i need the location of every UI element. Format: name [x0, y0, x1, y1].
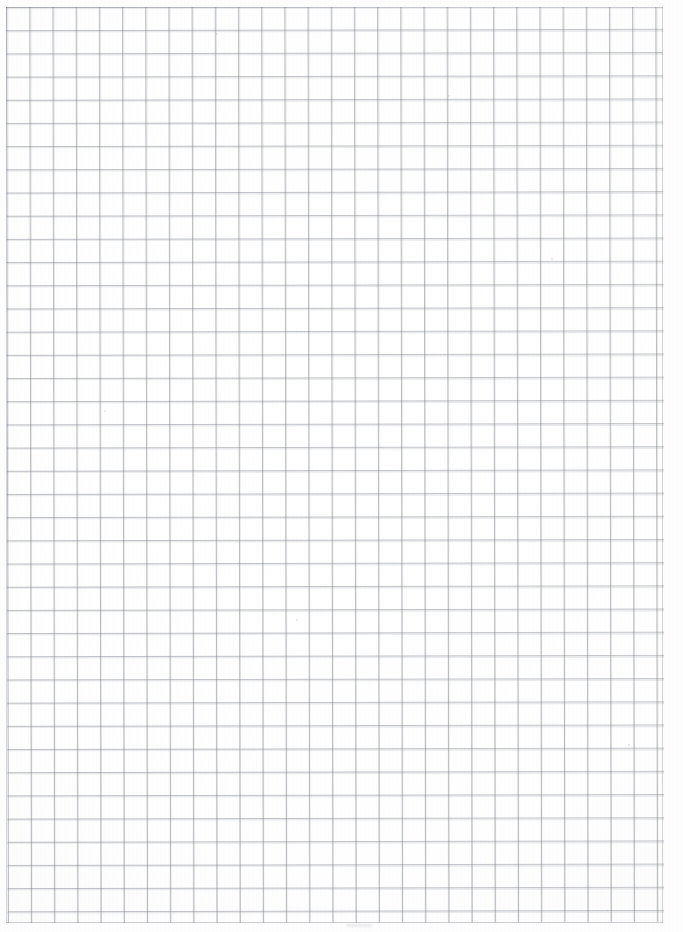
scan-speck-3	[448, 95, 450, 97]
scan-speck-4	[551, 258, 553, 260]
scan-speck-5	[296, 619, 298, 621]
scan-speck-1	[216, 33, 218, 35]
page-margin-right	[664, 0, 683, 932]
page-margin-left	[0, 0, 6, 932]
scan-smudge-artifact	[346, 924, 372, 927]
graph-paper-page: Scanned blank square-ruled graph paper w…	[0, 0, 683, 932]
grid-border-left	[6, 7, 7, 923]
scan-speck-2	[104, 410, 106, 412]
grid-lines-layer	[6, 5, 665, 922]
grid-border-top	[6, 7, 663, 8]
page-margin-top	[0, 0, 683, 7]
scan-speck-6	[628, 744, 630, 746]
page-margin-bottom	[0, 923, 683, 932]
grid-area	[0, 0, 683, 932]
